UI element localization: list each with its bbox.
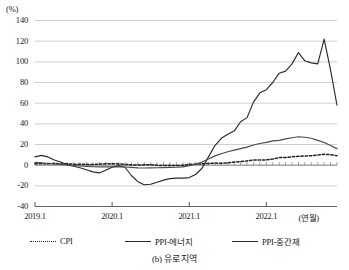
y-tick-label: 100 bbox=[2, 56, 28, 66]
figure-caption: (b) 유로 지역 bbox=[0, 252, 349, 265]
legend-swatch-icon bbox=[232, 241, 258, 242]
x-tick-label: 2019.1 bbox=[10, 211, 60, 221]
y-tick-label: 0 bbox=[2, 160, 28, 170]
y-tick-label: 20 bbox=[2, 139, 28, 149]
legend-item-0: CPI bbox=[30, 233, 73, 249]
series-line-1 bbox=[35, 39, 337, 185]
legend-label: PPI-중간재 bbox=[262, 235, 300, 247]
series-line-2 bbox=[35, 137, 337, 168]
y-tick-label: -40 bbox=[2, 201, 28, 211]
chart-legend: CPIPPI-에너지PPI-중간재 bbox=[0, 233, 349, 249]
legend-label: CPI bbox=[60, 236, 73, 246]
chart-plot-area bbox=[0, 0, 349, 270]
legend-swatch-icon bbox=[30, 241, 56, 242]
series-line-0 bbox=[35, 154, 337, 165]
chart-figure: (%) 140120100806040200-20-40 2019.12020.… bbox=[0, 0, 349, 270]
x-tick-label: 2022.1 bbox=[241, 211, 291, 221]
y-tick-label: 140 bbox=[2, 15, 28, 25]
y-tick-label: 40 bbox=[2, 118, 28, 128]
legend-label: PPI-에너지 bbox=[155, 235, 193, 247]
y-tick-label: 60 bbox=[2, 98, 28, 108]
legend-swatch-icon bbox=[125, 241, 151, 242]
y-axis-unit-label: (%) bbox=[6, 4, 18, 14]
y-tick-label: 120 bbox=[2, 36, 28, 46]
x-tick-label: 2021.1 bbox=[164, 211, 214, 221]
legend-item-1: PPI-에너지 bbox=[125, 233, 193, 249]
y-tick-label: -20 bbox=[2, 180, 28, 190]
y-tick-label: 80 bbox=[2, 77, 28, 87]
legend-item-2: PPI-중간재 bbox=[232, 233, 300, 249]
x-tick-label: 2020.1 bbox=[87, 211, 137, 221]
x-axis-unit-label: (연월) bbox=[298, 211, 318, 223]
